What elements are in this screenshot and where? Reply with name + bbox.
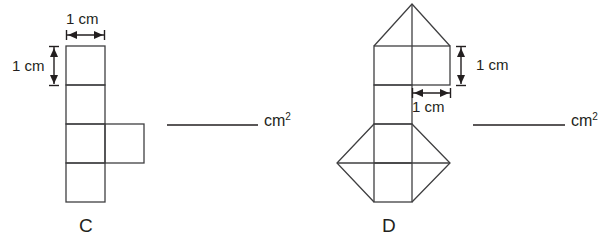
figure-c-height-dimension (49, 47, 59, 86)
figure-c-label: C (79, 216, 93, 235)
figure-c-net (66, 46, 144, 202)
figure-d-width-arrowhead-left (414, 89, 423, 97)
figure-c-answer-units: cm2 (264, 113, 291, 129)
figure-c-square-2 (66, 85, 105, 124)
figure-c-square-5 (105, 124, 144, 163)
figure-d-height-arrowhead-bottom (457, 75, 465, 84)
figure-c-width-dimension (67, 30, 105, 40)
figure-c-height-dimension-label: 1 cm (12, 58, 45, 73)
figure-d-width-dimension-label: 1 cm (412, 99, 445, 114)
figure-c-height-arrowhead-bottom (50, 75, 58, 84)
figure-d-answer-units-exponent: 2 (592, 111, 598, 122)
figure-c-width-dimension-label: 1 cm (66, 11, 99, 26)
figure-d-height-dimension (456, 47, 466, 86)
figure-c-square-3 (66, 124, 105, 163)
figure-d-label: D (382, 216, 396, 235)
figure-c-width-arrowhead-right (94, 31, 103, 39)
figure-d-answer-units: cm2 (571, 113, 598, 129)
figure-d-stem-square (374, 85, 412, 124)
figure-d-answer-units-text: cm (571, 112, 592, 129)
figure-d-height-arrowhead-top (457, 48, 465, 57)
figure-d-width-dimension (413, 88, 451, 98)
figures-drawing (0, 0, 615, 250)
worksheet-canvas: 1 cm 1 cm C cm2 1 cm 1 cm D cm2 (0, 0, 615, 250)
figure-d-height-dimension-label: 1 cm (476, 57, 509, 72)
figure-c-square-4 (66, 163, 105, 202)
figure-c-answer-units-exponent: 2 (285, 111, 291, 122)
figure-c-square-1 (66, 46, 105, 85)
figure-c-answer-units-text: cm (264, 112, 285, 129)
figure-d-width-arrowhead-right (440, 89, 449, 97)
figure-c-height-arrowhead-top (50, 48, 58, 57)
figure-c-width-arrowhead-left (68, 31, 77, 39)
